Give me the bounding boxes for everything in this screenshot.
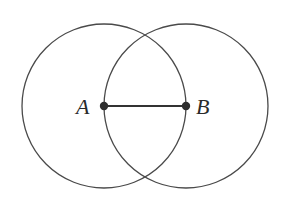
circle-construction-diagram: A B bbox=[0, 0, 282, 217]
point-a bbox=[100, 102, 108, 110]
label-b: B bbox=[196, 94, 209, 119]
label-a: A bbox=[74, 94, 90, 119]
point-b bbox=[182, 102, 190, 110]
